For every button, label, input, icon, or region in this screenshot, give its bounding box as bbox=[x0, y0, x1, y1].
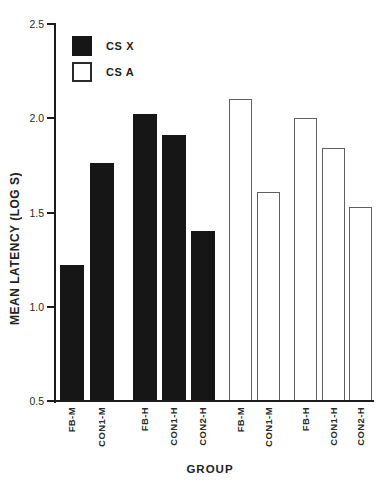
y-tick-label-1-5: 1.5 bbox=[0, 207, 44, 219]
bar-cs-a-fb-h bbox=[294, 118, 317, 401]
y-tick-label-0-5: 0.5 bbox=[0, 395, 44, 407]
x-axis-title: GROUP bbox=[186, 463, 233, 475]
legend: CS X CS A bbox=[72, 36, 134, 88]
y-tick-label-1-0: 1.0 bbox=[0, 301, 44, 313]
bar-cs-x-fb-h bbox=[133, 114, 157, 401]
y-axis-line bbox=[54, 23, 56, 403]
x-tick-label-cs-a-con2-h: CON2-H bbox=[355, 407, 367, 446]
bar-cs-a-fb-m bbox=[229, 99, 252, 401]
x-tick-label-cs-x-con1-m: CON1-M bbox=[96, 407, 108, 447]
y-tick-label-2-5: 2.5 bbox=[0, 18, 44, 30]
legend-row-csx: CS X bbox=[72, 36, 134, 56]
legend-label-csa: CS A bbox=[106, 66, 134, 78]
bar-cs-x-con1-m bbox=[90, 163, 114, 401]
bar-cs-x-con1-h bbox=[162, 135, 186, 401]
x-axis-line bbox=[54, 400, 374, 402]
x-tick-label-cs-x-con1-h: CON1-H bbox=[168, 407, 180, 446]
legend-swatch-open-white bbox=[72, 62, 92, 82]
x-tick-label-cs-a-fb-h: FB-H bbox=[300, 407, 312, 431]
y-tick-label-2-0: 2.0 bbox=[0, 112, 44, 124]
legend-row-csa: CS A bbox=[72, 62, 134, 82]
legend-swatch-filled-black bbox=[72, 36, 92, 56]
x-tick-label-cs-a-fb-m: FB-M bbox=[235, 407, 247, 432]
x-tick-label-cs-x-con2-h: CON2-H bbox=[197, 407, 209, 446]
legend-label-csx: CS X bbox=[106, 40, 134, 52]
x-tick-label-cs-x-fb-h: FB-H bbox=[139, 407, 151, 431]
bar-cs-x-fb-m bbox=[60, 265, 84, 401]
bar-chart-figure: MEAN LATENCY (LOG S) 2.52.01.51.00.5 FB-… bbox=[0, 0, 377, 485]
bar-cs-a-con2-h bbox=[349, 207, 372, 401]
bar-cs-x-con2-h bbox=[191, 231, 215, 401]
bar-cs-a-con1-m bbox=[257, 192, 280, 401]
x-tick-label-cs-a-con1-h: CON1-H bbox=[328, 407, 340, 446]
x-tick-label-cs-x-fb-m: FB-M bbox=[66, 407, 78, 432]
bar-cs-a-con1-h bbox=[322, 148, 345, 401]
x-tick-label-cs-a-con1-m: CON1-M bbox=[263, 407, 275, 447]
